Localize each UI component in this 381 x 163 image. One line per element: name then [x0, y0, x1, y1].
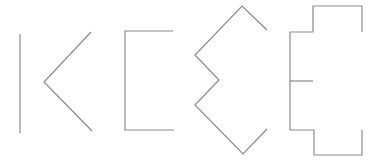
line-shapes-figure [0, 0, 381, 163]
shape-4-zigzag [195, 6, 267, 154]
figure-canvas [0, 0, 381, 163]
shape-2-chevron [44, 32, 92, 131]
shape-3-bracket [125, 31, 174, 130]
